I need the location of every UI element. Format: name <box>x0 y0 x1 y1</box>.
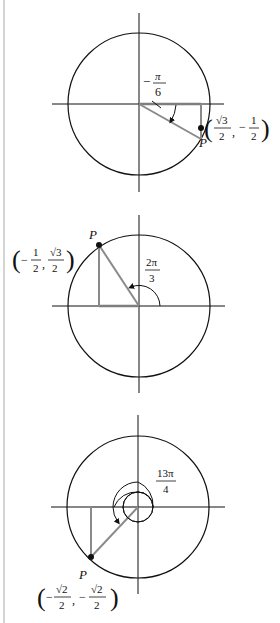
svg-text:): ) <box>110 583 119 612</box>
angle-label: − π 6 <box>143 70 166 99</box>
terminal-side <box>139 104 201 139</box>
angle-arc <box>131 285 160 306</box>
coordinate-label: ( − √2 2 , − √2 2 ) <box>37 583 119 612</box>
svg-text:4: 4 <box>163 483 169 495</box>
svg-text:,: , <box>72 593 75 607</box>
svg-text:2: 2 <box>52 262 58 274</box>
svg-text:(: ( <box>12 245 21 274</box>
svg-text:2: 2 <box>219 130 225 142</box>
terminal-side <box>99 245 139 306</box>
svg-text:√2: √2 <box>91 583 103 595</box>
svg-text:−: − <box>143 74 150 89</box>
svg-text:3: 3 <box>149 272 155 284</box>
coordinate-label: ( − 1 2 , √3 2 ) <box>12 245 75 274</box>
angle-label: 13π 4 <box>156 467 176 495</box>
svg-text:2: 2 <box>33 262 39 274</box>
svg-text:−: − <box>79 590 86 604</box>
point-p-label: P <box>78 567 87 582</box>
svg-text:13π: 13π <box>157 467 174 479</box>
svg-text:√3: √3 <box>50 246 62 258</box>
unit-circle-figure: − π 6 P ( √3 2 , − 1 2 ) 2π <box>0 0 280 623</box>
svg-text:√3: √3 <box>216 114 228 126</box>
svg-text:1: 1 <box>251 114 257 126</box>
panel-3: 13π 4 P ( − √2 2 , − √2 2 ) <box>37 415 225 612</box>
svg-text:): ) <box>66 245 75 274</box>
coordinate-label: ( √3 2 , − 1 2 ) <box>204 114 270 143</box>
panel-1: − π 6 P ( √3 2 , − 1 2 ) <box>52 13 270 192</box>
angle-spiral-arc <box>113 482 153 522</box>
svg-text:1: 1 <box>33 246 39 258</box>
svg-text:6: 6 <box>155 85 161 99</box>
svg-text:π: π <box>155 70 161 82</box>
svg-text:2: 2 <box>59 599 65 611</box>
svg-text:(: ( <box>37 583 46 612</box>
angle-label: 2π 3 <box>145 256 160 284</box>
point-p-marker <box>88 554 94 560</box>
svg-text:−: − <box>239 120 246 134</box>
svg-text:,: , <box>232 125 235 139</box>
panel-2: 2π 3 P ( − 1 2 , √3 2 ) <box>12 215 225 393</box>
point-p-marker <box>96 242 102 248</box>
svg-text:,: , <box>42 257 45 271</box>
svg-text:): ) <box>261 114 270 143</box>
svg-text:2: 2 <box>94 599 100 611</box>
svg-text:2: 2 <box>251 130 257 142</box>
angle-arc <box>171 105 176 121</box>
svg-text:2π: 2π <box>146 256 158 268</box>
svg-text:−: − <box>21 253 28 267</box>
svg-text:√2: √2 <box>56 583 68 595</box>
svg-text:−: − <box>46 590 53 604</box>
svg-text:(: ( <box>204 114 213 143</box>
point-p-label: P <box>88 227 97 242</box>
